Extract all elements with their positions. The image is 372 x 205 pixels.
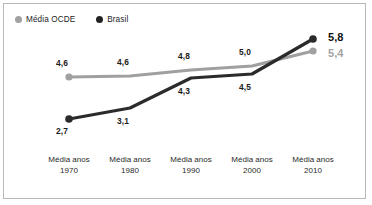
end-label-ocde: 5,4 — [328, 47, 344, 59]
value-label-ocde-2000: 5,0 — [239, 47, 251, 57]
data-point-ocde-2010 — [309, 47, 316, 54]
chart-container: Média OCDE Brasil 4,6 4,6 4,8 5,0 2,7 3,… — [3, 3, 366, 199]
value-label-brasil-1970: 2,7 — [56, 126, 68, 136]
value-label-ocde-1980: 4,6 — [117, 57, 129, 67]
end-label-brasil: 5,8 — [328, 31, 344, 43]
series-line-brasil — [69, 39, 313, 119]
data-point-brasil-1970 — [65, 115, 73, 123]
data-point-brasil-2010 — [309, 35, 317, 43]
value-label-brasil-2000: 4,5 — [239, 82, 251, 92]
value-label-brasil-1980: 3,1 — [117, 116, 129, 126]
series-line-ocde — [69, 51, 313, 77]
x-tick-2010: Média anos 2010 — [277, 154, 349, 176]
data-point-ocde-1970 — [65, 73, 72, 80]
value-label-brasil-1990: 4,3 — [178, 86, 190, 96]
x-axis: Média anos 1970 Média anos 1980 Média an… — [4, 154, 367, 194]
value-label-ocde-1970: 4,6 — [56, 58, 68, 68]
value-label-ocde-1990: 4,8 — [178, 51, 190, 61]
